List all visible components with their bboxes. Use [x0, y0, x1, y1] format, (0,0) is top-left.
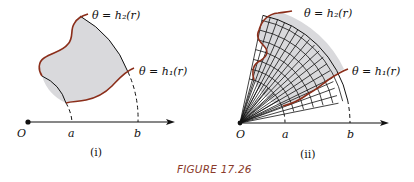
figure-canvas: O a b θ = h₂(r) θ = h₁(r) (i): [0, 0, 414, 182]
panel-label: (i): [90, 146, 102, 159]
figure-caption: FIGURE 17.26: [177, 163, 252, 175]
a-label: a: [282, 128, 289, 141]
b-label: b: [134, 127, 141, 140]
panel-i: O a b θ = h₂(r) θ = h₁(r) (i): [17, 9, 187, 159]
arc-a-dashed: [66, 103, 72, 122]
panel-label: (ii): [300, 148, 316, 161]
h1-label: θ = h₁(r): [352, 65, 400, 78]
origin-point: [25, 119, 30, 124]
region-shaded: [39, 16, 128, 103]
h1-label: θ = h₁(r): [139, 65, 187, 78]
origin-label: O: [236, 128, 245, 141]
arc-a-dashed: [284, 114, 285, 123]
origin-point: [238, 121, 243, 126]
h2-label: θ = h₂(r): [304, 7, 352, 20]
arc-b-dashed: [348, 100, 350, 123]
a-label: a: [68, 127, 75, 140]
arc-b-dashed: [128, 72, 138, 122]
b-label: b: [347, 128, 354, 141]
h2-label: θ = h₂(r): [92, 9, 140, 22]
origin-label: O: [17, 127, 26, 140]
panel-ii: O a b θ = h₂(r) θ = h₁(r) (ii): [236, 7, 400, 161]
